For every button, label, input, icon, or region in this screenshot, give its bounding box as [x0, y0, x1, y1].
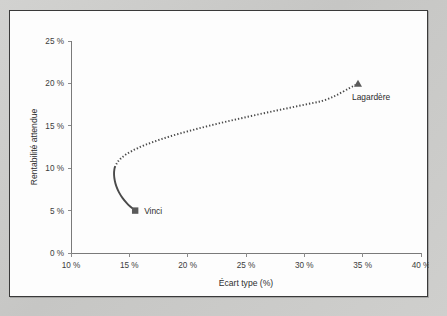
x-tick-label-25: 25 %: [237, 261, 256, 270]
lagardere-triangle-marker: [354, 80, 362, 87]
y-tick-label-20: 20 %: [45, 79, 64, 88]
y-tick-label-0: 0 %: [50, 249, 64, 258]
x-tick-label-40: 40 %: [412, 261, 429, 270]
frontier-curve-dotted: [115, 84, 358, 168]
annotation-vinci: Vinci: [132, 206, 162, 216]
y-axis-title: Rentabilité attendue: [29, 109, 39, 186]
x-tick-label-30: 30 %: [295, 261, 314, 270]
x-axis-tick-labels: 10 % 15 % 20 % 25 % 30 % 35 % 40 %: [62, 261, 429, 270]
x-tick-label-10: 10 %: [62, 261, 81, 270]
y-tick-label-25: 25 %: [45, 37, 64, 46]
lagardere-label: Lagardère: [352, 92, 391, 102]
page-background: 25 % 20 % 15 % 10 % 5 % 0 %: [0, 0, 447, 316]
series-group: [114, 84, 358, 211]
vinci-label: Vinci: [144, 206, 162, 216]
chart-plot-area: 25 % 20 % 15 % 10 % 5 % 0 %: [10, 11, 427, 296]
y-tick-label-5: 5 %: [50, 207, 64, 216]
y-tick-label-10: 10 %: [45, 164, 64, 173]
x-tick-label-15: 15 %: [120, 261, 139, 270]
annotation-lagardere: Lagardère: [352, 80, 391, 102]
y-tick-label-15: 15 %: [45, 122, 64, 131]
y-axis-tick-labels: 25 % 20 % 15 % 10 % 5 % 0 %: [45, 37, 64, 258]
figure-panel: 25 % 20 % 15 % 10 % 5 % 0 %: [9, 10, 428, 297]
axes-group: [71, 41, 421, 253]
vinci-square-marker: [132, 207, 138, 213]
x-axis-ticks: [71, 253, 421, 257]
x-tick-label-20: 20 %: [178, 261, 197, 270]
efficient-frontier-chart: 25 % 20 % 15 % 10 % 5 % 0 %: [10, 11, 429, 296]
x-axis-title: Écart type (%): [219, 278, 274, 288]
x-tick-label-35: 35 %: [353, 261, 372, 270]
frontier-curve-lower-solid: [114, 167, 135, 210]
